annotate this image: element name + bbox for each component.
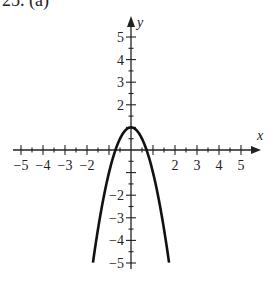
y-tick-label: −3 [109,211,124,226]
y-axis-arrow-icon [127,16,135,27]
y-tick-label: −4 [109,233,124,248]
x-tick-label: −3 [58,158,73,173]
y-axis-label: y [135,15,144,30]
x-tick-label: 3 [194,158,201,173]
x-tick-label: −2 [80,158,95,173]
y-tick-label: 2 [117,98,124,113]
x-tick-label: −5 [14,158,29,173]
x-axis-arrow-icon [251,146,261,154]
y-tick-label: −5 [109,256,124,271]
x-tick-label: 4 [216,158,223,173]
x-tick-label: 5 [238,158,245,173]
y-tick-label: 4 [117,53,124,68]
y-tick-label: 3 [117,75,124,90]
coordinate-plane: −5−4−3−223455432−2−3−4−5xy [0,0,275,293]
x-axis-label: x [256,128,264,143]
y-tick-label: 5 [117,30,124,45]
x-tick-label: 2 [172,158,179,173]
x-tick-label: −4 [36,158,51,173]
y-tick-label: −2 [109,188,124,203]
